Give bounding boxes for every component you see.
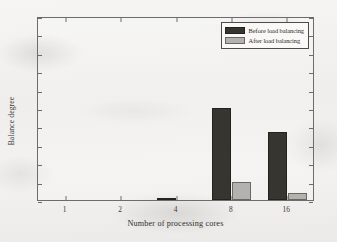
x-tick-mark [65,196,66,200]
x-tick-mark [176,18,177,22]
y-tick-mark [309,184,313,185]
y-tick-mark [38,184,42,185]
y-tick-mark [38,55,42,56]
y-tick-mark [309,202,313,203]
y-axis-title: Balance degree [7,66,16,176]
plot-area: Before load balancing After load balanci… [37,17,314,201]
y-tick-mark [38,110,42,111]
legend-item: Before load balancing [225,26,304,35]
legend-item: After load balancing [225,36,304,45]
y-tick-mark [38,92,42,93]
x-axis-title: Number of processing cores [37,219,314,228]
legend-swatch-before [225,27,245,34]
y-tick-mark [309,36,313,37]
bar [232,182,251,200]
bar-chart: Balance degree Before load balancing Aft… [0,0,337,242]
x-tick-mark [65,18,66,22]
y-tick-mark [309,165,313,166]
legend-label-before: Before load balancing [249,27,304,34]
x-tick-label: 2 [118,205,122,214]
y-tick-mark [38,36,42,37]
y-tick-mark [38,73,42,74]
x-tick-mark [121,196,122,200]
bar [212,108,231,200]
bar [268,132,287,200]
legend-swatch-after [225,37,245,44]
x-tick-label: 4 [174,205,178,214]
y-tick-mark [309,147,313,148]
y-tick-mark [309,92,313,93]
x-tick-label: 16 [283,205,290,214]
y-tick-mark [309,128,313,129]
y-tick-mark [309,110,313,111]
y-tick-mark [38,202,42,203]
y-tick-mark [309,55,313,56]
y-tick-mark [309,73,313,74]
y-tick-mark [309,18,313,19]
bar [157,198,176,200]
bar [288,193,307,200]
x-tick-mark [176,196,177,200]
y-tick-mark [38,18,42,19]
y-tick-mark [38,165,42,166]
x-tick-mark [121,18,122,22]
y-tick-mark [38,128,42,129]
y-tick-mark [38,147,42,148]
legend: Before load balancing After load balanci… [221,22,309,49]
x-tick-label: 8 [229,205,233,214]
x-tick-label: 1 [63,205,67,214]
legend-label-after: After load balancing [249,37,301,44]
